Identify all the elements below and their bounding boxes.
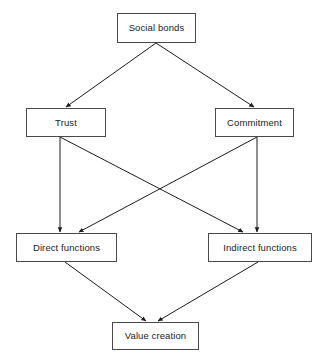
node-trust: Trust xyxy=(26,108,106,137)
flow-diagram: Social bonds Trust Commitment Direct fun… xyxy=(0,0,325,363)
node-label: Trust xyxy=(55,118,77,128)
node-commitment: Commitment xyxy=(215,108,294,137)
edge-direct-functions-to-value-creation xyxy=(65,262,146,321)
node-label: Commitment xyxy=(227,118,282,128)
edge-social-bonds-to-commitment xyxy=(156,43,254,107)
node-label: Direct functions xyxy=(33,243,100,253)
edge-social-bonds-to-trust xyxy=(66,43,156,107)
node-direct-functions: Direct functions xyxy=(16,233,117,262)
edge-indirect-functions-to-value-creation xyxy=(158,262,258,321)
edge-commitment-to-direct-functions xyxy=(79,137,257,232)
node-social-bonds: Social bonds xyxy=(117,13,196,43)
node-label: Indirect functions xyxy=(223,243,297,253)
edge-trust-to-indirect-functions xyxy=(60,137,243,232)
node-label: Value creation xyxy=(125,331,186,341)
node-indirect-functions: Indirect functions xyxy=(208,233,312,262)
edge-layer xyxy=(0,0,325,363)
node-label: Social bonds xyxy=(129,23,185,33)
node-value-creation: Value creation xyxy=(112,322,199,350)
